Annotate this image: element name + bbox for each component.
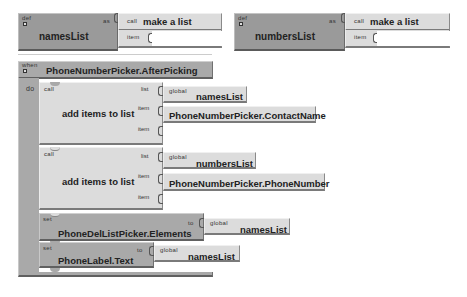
variable-name[interactable]: numbersList bbox=[255, 31, 315, 42]
component-property: PhoneNumberPicker.ContactName bbox=[169, 110, 326, 121]
call-label: call bbox=[127, 18, 137, 24]
global-namesList-getter-3[interactable]: global namesList bbox=[154, 245, 240, 262]
event-do-column: do bbox=[18, 78, 39, 276]
empty-item-socket-icon[interactable] bbox=[158, 126, 163, 136]
as-label: as bbox=[103, 18, 110, 24]
collapse-checkbox-icon[interactable] bbox=[23, 69, 27, 73]
global-namesList-getter-1[interactable]: global namesList bbox=[163, 86, 247, 103]
empty-item-slot[interactable] bbox=[152, 31, 222, 46]
make-a-list-block-2[interactable]: call make a list bbox=[345, 13, 450, 31]
procedure-name: add items to list bbox=[62, 108, 134, 119]
do-label: do bbox=[26, 85, 34, 92]
call-label: call bbox=[44, 151, 54, 157]
collapse-checkbox-icon[interactable] bbox=[239, 22, 243, 26]
to-label: to bbox=[188, 220, 194, 226]
make-a-list-label: make a list bbox=[143, 16, 192, 27]
global-namesList-getter-2[interactable]: global namesList bbox=[204, 218, 290, 235]
divider bbox=[18, 54, 212, 55]
as-label: as bbox=[329, 18, 336, 24]
global-label: global bbox=[210, 220, 228, 226]
global-label: global bbox=[160, 247, 178, 253]
variable-name: numbersList bbox=[196, 158, 253, 169]
def-keyword: def bbox=[22, 15, 31, 21]
event-block-after-picking[interactable]: when PhoneNumberPicker.AfterPicking bbox=[18, 61, 213, 79]
variable-name[interactable]: namesList bbox=[39, 31, 88, 42]
set-label: set bbox=[43, 216, 52, 222]
variable-name: namesList bbox=[196, 91, 243, 102]
empty-item-socket-icon[interactable] bbox=[158, 194, 163, 204]
collapse-checkbox-icon[interactable] bbox=[23, 22, 27, 26]
variable-name: namesList bbox=[188, 251, 235, 262]
set-text-block[interactable]: set PhoneLabel.Text to bbox=[39, 242, 154, 268]
procedure-name: add items to list bbox=[62, 176, 134, 187]
item-label: item bbox=[354, 34, 367, 40]
def-numbersList-block[interactable]: def numbersList as bbox=[234, 13, 345, 51]
global-label: global bbox=[169, 154, 187, 160]
event-name: PhoneNumberPicker.AfterPicking bbox=[46, 65, 198, 76]
global-numbersList-getter[interactable]: global numbersList bbox=[163, 152, 256, 169]
def-keyword: def bbox=[238, 15, 247, 21]
set-elements-block[interactable]: set PhoneDelListPicker.Elements to bbox=[39, 213, 204, 241]
phone-number-getter[interactable]: PhoneNumberPicker.PhoneNumber bbox=[163, 173, 325, 191]
to-label: to bbox=[137, 247, 143, 253]
make-a-list-block-1[interactable]: call make a list bbox=[118, 13, 222, 31]
global-label: global bbox=[169, 88, 187, 94]
component-property: PhoneNumberPicker.PhoneNumber bbox=[169, 178, 329, 189]
item-label: item bbox=[127, 34, 140, 40]
component-property-name: PhoneLabel.Text bbox=[58, 255, 133, 266]
call-label: call bbox=[44, 86, 54, 92]
variable-name: namesList bbox=[240, 224, 287, 235]
add-items-to-list-block-2[interactable]: call add items to list list item item bbox=[39, 147, 163, 210]
add-items-to-list-block-1[interactable]: call add items to list list item item bbox=[39, 82, 163, 145]
list-socket-label: list bbox=[141, 86, 148, 92]
empty-item-slot[interactable] bbox=[377, 31, 450, 46]
when-label: when bbox=[22, 62, 38, 68]
contact-name-getter[interactable]: PhoneNumberPicker.ContactName bbox=[163, 106, 316, 123]
set-label: set bbox=[43, 245, 52, 251]
item-socket-label: item bbox=[138, 126, 149, 132]
list-socket-label: list bbox=[141, 153, 148, 159]
call-label: call bbox=[354, 18, 364, 24]
component-property-name: PhoneDelListPicker.Elements bbox=[58, 228, 192, 239]
def-namesList-block[interactable]: def namesList as bbox=[18, 13, 118, 51]
item-socket-label: item bbox=[138, 173, 149, 179]
item-socket-label: item bbox=[138, 194, 149, 200]
item-socket-label: item bbox=[138, 105, 149, 111]
make-a-list-label: make a list bbox=[370, 16, 419, 27]
